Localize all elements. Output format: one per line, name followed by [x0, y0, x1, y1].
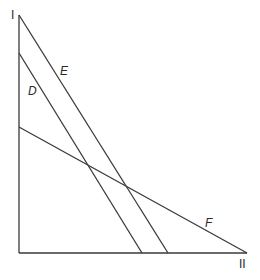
line-label-f: F	[205, 216, 213, 230]
axis-label-i: I	[11, 8, 14, 22]
line-e	[19, 15, 168, 253]
line-d	[19, 53, 142, 253]
line-f	[19, 127, 247, 253]
line-label-d: D	[28, 84, 37, 98]
line-label-e: E	[60, 64, 69, 78]
axis-label-ii: II	[239, 257, 246, 271]
diagram-canvas: I II E D F	[0, 0, 260, 280]
